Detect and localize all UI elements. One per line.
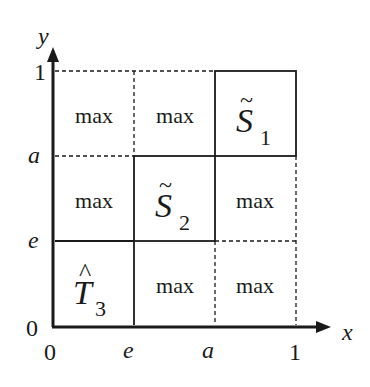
cell-max: max: [156, 103, 194, 128]
t3-base: T: [73, 274, 94, 311]
cell-max: max: [236, 273, 274, 298]
x-tick-e: e: [123, 337, 134, 363]
cell-max: max: [236, 188, 274, 213]
s1-box: [215, 71, 296, 156]
y-tick-0: 0: [26, 315, 38, 341]
x-axis-arrow-icon: [316, 321, 331, 333]
s2-box: [134, 156, 215, 241]
region-s2-label: ~ S 2: [155, 172, 190, 235]
t3-subscript: 3: [95, 296, 106, 321]
s1-base: S: [236, 102, 253, 139]
region-t3-label: ^ T 3: [73, 258, 106, 321]
cell-max: max: [156, 273, 194, 298]
cell-max: max: [75, 188, 113, 213]
x-tick-1: 1: [289, 339, 301, 365]
cell-max: max: [75, 103, 113, 128]
y-axis-label: y: [36, 23, 49, 49]
s1-subscript: 1: [260, 125, 271, 150]
s2-subscript: 2: [179, 210, 190, 235]
y-tick-1: 1: [34, 59, 46, 85]
y-axis-arrow-icon: [47, 47, 59, 62]
x-tick-a: a: [202, 337, 214, 363]
diagram: y x 1 a e 0 0 e a 1 max max max max max …: [0, 0, 370, 387]
x-axis-label: x: [341, 319, 353, 345]
region-s1-label: ~ S 1: [236, 87, 271, 150]
y-tick-a: a: [28, 142, 40, 168]
s2-base: S: [155, 187, 172, 224]
y-tick-e: e: [28, 227, 39, 253]
x-tick-0: 0: [44, 339, 56, 365]
